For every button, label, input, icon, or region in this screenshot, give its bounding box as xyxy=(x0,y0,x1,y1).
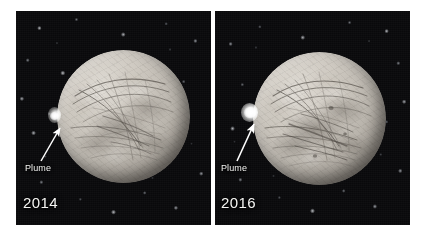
year-label-2014: 2014 xyxy=(23,194,58,211)
europa-plume-comparison-figure: Plume 2014 xyxy=(0,0,424,239)
moon-limb-shading xyxy=(253,52,386,185)
europa-disk-2016 xyxy=(253,52,386,185)
plume-label-2016: Plume xyxy=(221,163,247,173)
moon-limb-shading xyxy=(57,50,190,183)
image-panel-2016: Plume 2016 xyxy=(215,11,410,225)
europa-disk-2014 xyxy=(57,50,190,183)
plume-label-2014: Plume xyxy=(25,163,51,173)
image-panel-2014: Plume 2014 xyxy=(16,11,211,225)
year-label-2016: 2016 xyxy=(221,194,256,211)
